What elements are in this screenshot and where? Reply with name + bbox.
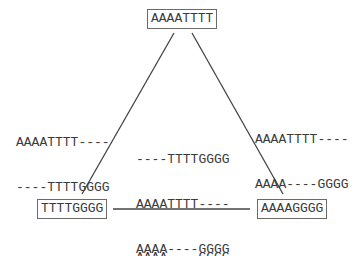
alignment-left-edge: AAAATTTT---- ----TTTTGGGG (16, 105, 110, 210)
alignment-bottom-edge: AAAA----GGGG ----TTTTGGGG (136, 220, 230, 256)
alignment-right-edge: AAAATTTT---- AAAA----GGGG (255, 102, 349, 207)
alignment-row: AAAATTTT---- (16, 135, 110, 150)
alignment-row: ----TTTTGGGG (136, 152, 230, 167)
alignment-row: AAAATTTT---- (255, 132, 349, 147)
alignment-row: AAAATTTT---- (136, 197, 230, 212)
node-top: AAAATTTT (147, 9, 217, 29)
alignment-row: ----TTTTGGGG (16, 180, 110, 195)
alignment-row: AAAA----GGGG (136, 250, 230, 256)
alignment-row: AAAA----GGGG (255, 177, 349, 192)
